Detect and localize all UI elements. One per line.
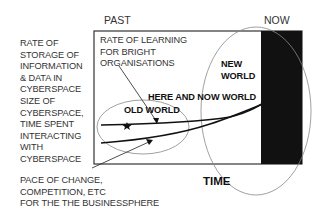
pace-of-change-line: COMPETITION, ETC (20, 187, 159, 199)
y-axis-label-line: & DATA IN (20, 73, 84, 85)
pace-of-change-label: PACE OF CHANGE, COMPETITION, ETC FOR THE… (20, 175, 159, 210)
y-axis-label-line: TIME SPENT (20, 119, 84, 131)
learning-rate-line: RATE OF LEARNING (100, 35, 187, 47)
pace-of-change-line: PACE OF CHANGE, (20, 175, 159, 187)
new-world-label: NEW WORLD (221, 59, 255, 82)
now-label: NOW (264, 14, 290, 26)
new-world-line: NEW (221, 59, 255, 71)
y-axis-label-line: WITH (20, 142, 84, 154)
learning-rate-line: ORGANISATIONS (100, 58, 187, 70)
x-axis-label: TIME (203, 175, 230, 187)
y-axis-label-line: STORAGE OF (20, 50, 84, 62)
y-axis-label-line: RATE OF (20, 38, 84, 50)
learning-rate-line: FOR BRIGHT (100, 47, 187, 59)
star-marker (123, 122, 132, 130)
pace-pointer-arrowhead (146, 139, 153, 145)
y-axis-label: RATE OF STORAGE OF INFORMATION & DATA IN… (20, 38, 84, 166)
y-axis-label-line: SIZE OF (20, 96, 84, 108)
y-axis-label-line: INTERACTING (20, 131, 84, 143)
y-axis-label-line: CYBERSPACE (20, 154, 84, 166)
past-label: PAST (104, 14, 131, 26)
old-world-label: OLD WORLD (124, 105, 180, 117)
pace-of-change-line: FOR THE THE BUSINESSPHERE (20, 198, 159, 210)
y-axis-label-line: INFORMATION (20, 61, 84, 73)
here-and-now-label: HERE AND NOW WORLD (148, 92, 256, 104)
y-axis-label-line: CYBERSPACE, (20, 108, 84, 120)
now-band (261, 31, 302, 164)
learning-rate-label: RATE OF LEARNING FOR BRIGHT ORGANISATION… (100, 35, 187, 70)
new-world-line: WORLD (221, 71, 255, 83)
y-axis-label-line: CYBERSPACE (20, 84, 84, 96)
